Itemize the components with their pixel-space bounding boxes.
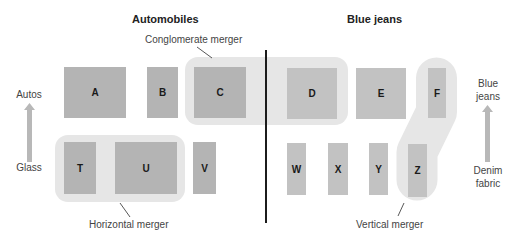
axis-right-bottom-label: Denim fabric (470, 164, 506, 190)
firm-b: B (147, 67, 178, 118)
firm-x: X (328, 143, 348, 195)
firm-a: A (64, 67, 126, 118)
firm-u: U (115, 142, 177, 194)
firm-y: Y (369, 143, 388, 195)
firm-f: F (428, 68, 446, 118)
firm-t: T (64, 142, 96, 194)
firm-v: V (193, 142, 216, 194)
firm-d: D (287, 68, 337, 119)
firm-c: C (194, 67, 246, 118)
firm-w: W (287, 143, 306, 195)
up-arrow-icon (0, 0, 511, 244)
firm-z: Z (408, 144, 427, 197)
firm-e: E (356, 68, 406, 119)
